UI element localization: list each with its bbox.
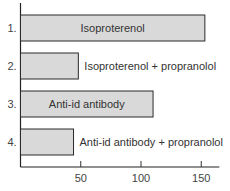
bar-label: Isoproterenol + propranolol [84,60,216,72]
category-label: 3. [7,98,16,110]
x-tick-label: 50 [75,172,87,184]
bar-label: Anti-id antibody + propranolol [80,136,223,148]
x-tick-label: 150 [192,172,210,184]
category-label: 1. [7,22,16,34]
category-label: 4. [7,136,16,148]
bar [21,129,74,155]
bar [21,53,79,79]
bar-label: Isoproterenol [81,22,145,34]
category-label: 2. [7,60,16,72]
bar-chart: 501001501.Isoproterenol2.Isoproterenol +… [0,0,230,191]
bar-label: Anti-id antibody [49,98,125,110]
x-tick-label: 100 [132,172,150,184]
